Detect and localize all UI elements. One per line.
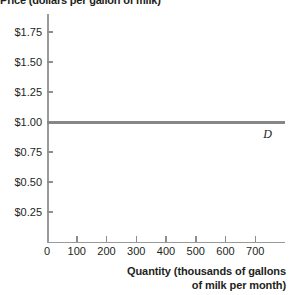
demand-curve-label: D [263, 127, 272, 142]
y-axis-tick-label: $1.75 [0, 27, 42, 38]
x-axis-tick [255, 236, 257, 242]
x-axis-tick [76, 236, 78, 242]
x-axis-tick [225, 236, 227, 242]
y-axis-tick [47, 151, 53, 153]
demand-curve-line [47, 121, 285, 124]
demand-curve-chart: Price (dollars per gallon of milk) $1.75… [0, 0, 296, 295]
y-axis-tick-label: $1.00 [0, 117, 42, 128]
y-axis-tick [47, 181, 53, 183]
y-axis-tick [47, 211, 53, 213]
y-axis-tick-label: $0.25 [0, 207, 42, 218]
y-axis-tick [47, 61, 53, 63]
y-axis-tick [47, 91, 53, 93]
x-axis-tick [195, 236, 197, 242]
x-axis-tick [106, 236, 108, 242]
y-axis-tick-label: $1.50 [0, 57, 42, 68]
y-axis-tick-label: $0.50 [0, 177, 42, 188]
chart-title: Price (dollars per gallon of milk) [0, 0, 290, 6]
y-axis-tick-label: $1.25 [0, 87, 42, 98]
x-axis-label-line1: Quantity (thousands of gallons [127, 265, 286, 277]
x-axis-tick [165, 236, 167, 242]
y-axis-tick [47, 31, 53, 33]
x-axis-label-line2: of milk per month) [192, 279, 286, 291]
y-axis-tick-label: $0.75 [0, 147, 42, 158]
x-axis-label: Quantity (thousands of gallons of milk p… [86, 264, 286, 292]
x-axis-tick [136, 236, 138, 242]
x-axis-tick-label: 700 [235, 246, 275, 257]
y-axis-line [47, 14, 49, 243]
